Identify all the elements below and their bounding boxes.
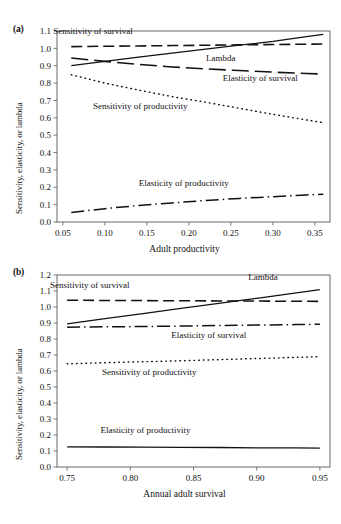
- x-tick-label: 0.15: [139, 228, 155, 238]
- y-tick-label: 0.2: [40, 430, 51, 440]
- annotation-elasticity-of-survival: Elasticity of survival: [171, 330, 246, 340]
- series-line-elasticity-of-productivity: [67, 447, 320, 448]
- panel-a-plot: 0.00.10.20.30.40.50.60.70.80.91.01.10.05…: [0, 0, 341, 240]
- x-tick-label: 0.20: [181, 228, 197, 238]
- y-tick-label: 1.1: [40, 26, 51, 36]
- annotation-lambda: Lambda: [206, 53, 236, 63]
- series-line-lambda: [67, 290, 320, 324]
- panel-a-x-axis-label: Adult productivity: [14, 244, 341, 254]
- y-tick-label: 0.7: [40, 96, 52, 106]
- y-tick-label: 0.9: [40, 61, 52, 71]
- annotation-sensitivity-of-productivity: Sensitivity of productivity: [93, 101, 188, 111]
- panel-b-plot: 0.00.10.20.30.40.50.60.70.80.91.01.11.20…: [0, 262, 341, 484]
- y-tick-label: 0.1: [40, 200, 51, 210]
- x-tick-label: 0.30: [265, 228, 281, 238]
- x-tick-label: 0.90: [249, 473, 265, 483]
- annotation-sensitivity-of-survival: Sensitivity of survival: [50, 280, 130, 290]
- y-tick-label: 0.7: [40, 350, 52, 360]
- y-tick-label: 0.6: [40, 113, 52, 123]
- y-tick-label: 0.0: [40, 462, 52, 472]
- y-tick-label: 0.8: [40, 78, 52, 88]
- x-tick-label: 0.85: [186, 473, 202, 483]
- annotation-elasticity-of-productivity: Elasticity of productivity: [100, 425, 190, 435]
- annotation-sensitivity-of-productivity: Sensitivity of productivity: [102, 367, 197, 377]
- panel-b-x-axis-label: Annual adult survival: [14, 489, 341, 499]
- y-tick-label: 0.1: [40, 446, 51, 456]
- annotation-elasticity-of-productivity: Elasticity of productivity: [139, 178, 229, 188]
- panel-a-svg: 0.00.10.20.30.40.50.60.70.80.91.01.10.05…: [0, 0, 341, 240]
- x-tick-label: 0.35: [307, 228, 323, 238]
- y-tick-label: 0.2: [40, 182, 51, 192]
- series-line-sensitivity-of-productivity: [67, 357, 320, 364]
- x-tick-label: 0.25: [223, 228, 239, 238]
- figure-container: (a) Sensitivity, elasticity, or lambda A…: [0, 0, 341, 524]
- panel-b: (b) Sensitivity, elasticity, or lambda A…: [0, 262, 341, 524]
- y-tick-label: 1.0: [40, 302, 52, 312]
- annotation-lambda: Lambda: [248, 272, 278, 282]
- series-line-sensitivity-of-survival: [71, 44, 323, 47]
- y-tick-label: 0.4: [40, 148, 52, 158]
- y-tick-label: 0.5: [40, 382, 52, 392]
- x-tick-label: 0.10: [97, 228, 113, 238]
- x-tick-label: 0.80: [122, 473, 138, 483]
- y-tick-label: 0.3: [40, 165, 52, 175]
- x-tick-label: 0.05: [55, 228, 71, 238]
- annotation-sensitivity-of-survival: Sensitivity of survival: [53, 26, 133, 36]
- y-tick-label: 1.0: [40, 44, 52, 54]
- x-tick-label: 0.75: [59, 473, 75, 483]
- series-line-sensitivity-of-survival: [67, 300, 320, 301]
- y-tick-label: 0.3: [40, 414, 52, 424]
- panel-b-svg: 0.00.10.20.30.40.50.60.70.80.91.01.11.20…: [0, 262, 341, 484]
- y-tick-label: 1.2: [40, 270, 51, 280]
- y-tick-label: 0.5: [40, 130, 52, 140]
- series-line-elasticity-of-survival: [67, 324, 320, 327]
- y-tick-label: 0.0: [40, 217, 52, 227]
- x-tick-label: 0.95: [312, 473, 328, 483]
- panel-a: (a) Sensitivity, elasticity, or lambda A…: [0, 0, 341, 262]
- plot-frame: [57, 31, 330, 222]
- y-tick-label: 0.8: [40, 334, 52, 344]
- y-tick-label: 0.4: [40, 398, 52, 408]
- y-tick-label: 0.6: [40, 366, 52, 376]
- annotation-elasticity-of-survival: Elasticity of survival: [223, 73, 298, 83]
- series-line-elasticity-of-productivity: [71, 194, 323, 212]
- y-tick-label: 0.9: [40, 318, 52, 328]
